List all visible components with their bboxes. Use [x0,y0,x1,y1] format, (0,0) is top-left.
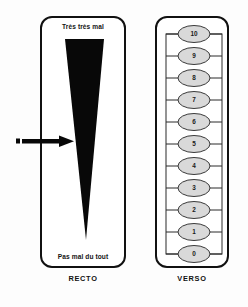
patient-mark-arrow-icon [16,130,78,152]
recto-bottom-label: Pas mal du tout [42,253,124,260]
scale-item[interactable]: 7 [178,92,210,109]
scale-item[interactable]: 4 [178,158,210,175]
scale-ellipse-group: 10 9 8 7 6 [178,26,210,263]
scale-value: 10 [190,30,198,37]
scale-item[interactable]: 2 [178,202,210,219]
scale-value: 8 [192,74,196,81]
scale-value: 5 [192,140,196,147]
scale-value: 9 [192,52,196,59]
scale-item[interactable]: 1 [178,224,210,241]
scale-item[interactable]: 3 [178,180,210,197]
scale-item[interactable]: 5 [178,136,210,153]
scale-item[interactable]: 6 [178,114,210,131]
scale-value: 7 [192,96,196,103]
scale-value: 6 [192,118,196,125]
figure-canvas: Très très mal Pas mal du tout [0,0,248,307]
scale-item[interactable]: 9 [178,48,210,65]
scale-value: 0 [192,250,196,257]
verso-card: 10 9 8 7 6 [155,16,229,268]
scale-value: 4 [192,162,196,169]
scale-item[interactable]: 8 [178,70,210,87]
verso-numeric-scale: 10 9 8 7 6 [157,18,231,270]
scale-item[interactable]: 10 [178,26,210,43]
scale-value: 1 [192,228,196,235]
scale-value: 3 [192,184,196,191]
scale-item[interactable]: 0 [178,246,210,263]
caption-verso: VERSO [155,274,229,283]
caption-recto: RECTO [40,274,126,283]
scale-value: 2 [192,206,196,213]
